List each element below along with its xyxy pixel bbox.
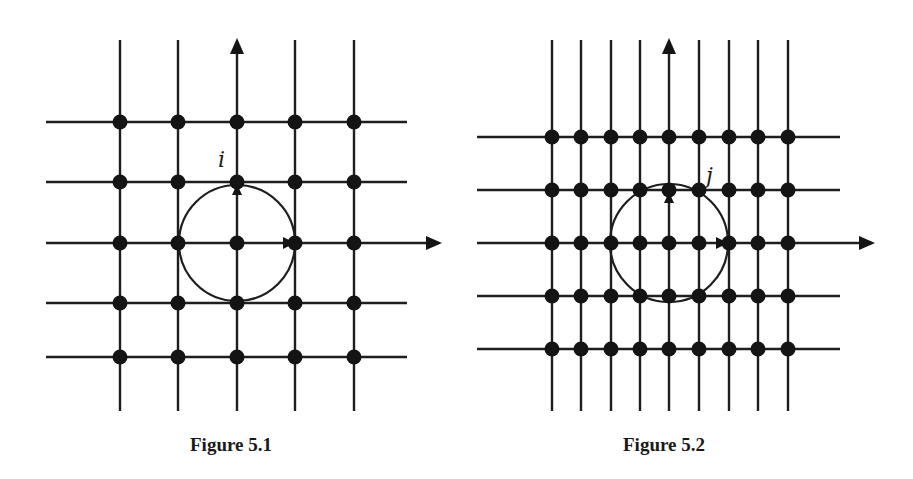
y-axis-arrow-icon [230, 38, 244, 54]
x-axis-arrow-icon [426, 236, 442, 250]
lattice-diagram-figure-5-1: i [46, 38, 442, 411]
lattice-node [288, 350, 303, 365]
lattice-node [574, 236, 589, 251]
lattice-node [781, 342, 796, 357]
lattice-node [545, 183, 560, 198]
figure-canvas: i j [0, 0, 913, 479]
lattice-node [751, 130, 766, 145]
lattice-node [604, 289, 619, 304]
lattice-node [781, 236, 796, 251]
lattice-node [781, 289, 796, 304]
lattice-node [230, 115, 245, 130]
lattice-node [662, 342, 677, 357]
lattice-node [574, 342, 589, 357]
lattice-node [751, 236, 766, 251]
lattice-node [604, 236, 619, 251]
lattice-node [574, 289, 589, 304]
lattice-node [171, 236, 186, 251]
lattice-node [633, 342, 648, 357]
lattice-node [347, 236, 362, 251]
lattice-node [692, 342, 707, 357]
lattice-node [347, 296, 362, 311]
lattice-node [692, 289, 707, 304]
lattice-node [171, 296, 186, 311]
lattice-node [545, 130, 560, 145]
lattice-node [113, 350, 128, 365]
lattice-node [722, 130, 737, 145]
lattice-node [113, 236, 128, 251]
lattice-node [288, 296, 303, 311]
lattice-diagram-figure-5-2: j [477, 38, 875, 411]
lattice-node [692, 236, 707, 251]
lattice-node [662, 130, 677, 145]
lattice-node [171, 175, 186, 190]
lattice-node [347, 175, 362, 190]
lattice-node [347, 115, 362, 130]
y-axis-arrow-icon [662, 38, 676, 54]
lattice-node [633, 289, 648, 304]
lattice-node [545, 289, 560, 304]
lattice-node [722, 289, 737, 304]
lattice-node [574, 183, 589, 198]
lattice-node [751, 183, 766, 198]
lattice-node [722, 342, 737, 357]
lattice-node [113, 175, 128, 190]
lattice-node [633, 130, 648, 145]
lattice-node [633, 183, 648, 198]
lattice-node [288, 115, 303, 130]
x-axis-arrow-icon [859, 236, 875, 250]
lattice-node [633, 236, 648, 251]
lattice-node [781, 130, 796, 145]
lattice-node [171, 350, 186, 365]
figure-caption-5-1: Figure 5.1 [190, 434, 272, 456]
lattice-node [751, 289, 766, 304]
lattice-node [347, 350, 362, 365]
lattice-node [604, 183, 619, 198]
lattice-node [722, 183, 737, 198]
lattice-node [604, 130, 619, 145]
lattice-node [692, 130, 707, 145]
lattice-node [171, 115, 186, 130]
lattice-node [751, 342, 766, 357]
lattice-node [230, 236, 245, 251]
lattice-node [662, 236, 677, 251]
lattice-node [545, 342, 560, 357]
lattice-node [230, 296, 245, 311]
lattice-node [574, 130, 589, 145]
site-label: i [218, 147, 225, 172]
figure-caption-5-2: Figure 5.2 [623, 434, 705, 456]
lattice-node [288, 175, 303, 190]
lattice-node [230, 350, 245, 365]
lattice-node [692, 183, 707, 198]
lattice-node [781, 183, 796, 198]
lattice-node [113, 115, 128, 130]
lattice-node [662, 289, 677, 304]
lattice-node [604, 342, 619, 357]
lattice-node [545, 236, 560, 251]
lattice-node [113, 296, 128, 311]
